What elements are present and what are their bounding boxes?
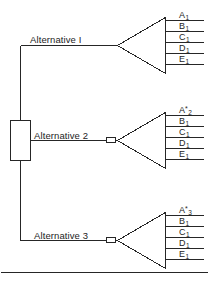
outcome-label: A*3 bbox=[179, 206, 192, 215]
fan-triangle-alternative-2 bbox=[118, 113, 166, 169]
outcome-label: B1 bbox=[179, 117, 189, 126]
outcome-label: C1 bbox=[179, 128, 189, 137]
outcome-label: E1 bbox=[179, 55, 189, 64]
figure-canvas: Alternative I Alternative 2 Alternative … bbox=[0, 0, 209, 282]
decision-square bbox=[11, 121, 31, 161]
branch-label-alternative-2: Alternative 2 bbox=[34, 131, 88, 141]
chance-marker-alternative-2 bbox=[107, 138, 116, 143]
branch-label-alternative-3: Alternative 3 bbox=[34, 231, 88, 241]
outcome-label: E1 bbox=[179, 150, 189, 159]
outcome-label: B1 bbox=[179, 217, 189, 226]
outcome-label: A*2 bbox=[179, 106, 192, 115]
outcome-label: C1 bbox=[179, 228, 189, 237]
outcome-label: D1 bbox=[179, 139, 189, 148]
outcome-label: A1 bbox=[179, 11, 189, 20]
outcome-label: B1 bbox=[179, 22, 189, 31]
outcome-label: D1 bbox=[179, 44, 189, 53]
outcome-label: C1 bbox=[179, 33, 189, 42]
fan-triangle-alternative-1 bbox=[118, 18, 166, 74]
outcome-label: D1 bbox=[179, 239, 189, 248]
branch-label-alternative-1: Alternative I bbox=[30, 35, 81, 45]
fan-triangle-alternative-3 bbox=[118, 213, 166, 269]
chance-marker-alternative-3 bbox=[107, 238, 116, 243]
outcome-label: E1 bbox=[179, 250, 189, 259]
